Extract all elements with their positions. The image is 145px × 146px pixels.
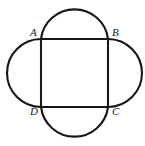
geometry-figure-canvas: A B C D — [0, 0, 145, 146]
vertex-label-b: B — [112, 27, 119, 38]
vertex-label-c: C — [112, 106, 119, 117]
square-with-four-arcs-drawing — [0, 0, 145, 146]
vertex-label-a: A — [30, 27, 37, 38]
figure-background — [0, 0, 145, 146]
vertex-label-d: D — [30, 106, 38, 117]
